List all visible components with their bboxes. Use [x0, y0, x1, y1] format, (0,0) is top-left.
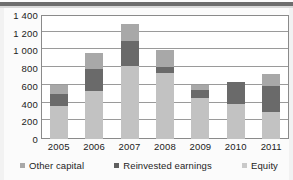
bar-segment-reinv-2007[interactable] — [121, 41, 139, 67]
stacked-bar-2009[interactable] — [191, 85, 209, 139]
bar-segment-other-2005[interactable] — [50, 85, 68, 95]
stacked-bar-2006[interactable] — [85, 53, 103, 139]
legend-item-equity[interactable]: Equity — [242, 160, 278, 171]
bar-group-2007 — [112, 15, 147, 139]
y-tick-label-800: 800 — [0, 63, 38, 74]
legend-swatch-icon-other — [20, 163, 25, 168]
bar-group-2011 — [254, 15, 289, 139]
bar-group-2010 — [218, 15, 253, 139]
page-edge-right — [289, 8, 293, 180]
chart-legend: Other capitalReinvested earningsEquity — [20, 160, 278, 171]
bar-group-2005 — [41, 15, 76, 139]
x-tick-label-2010: 2010 — [218, 141, 253, 152]
bar-segment-reinv-2010[interactable] — [227, 82, 245, 104]
bar-segment-reinv-2005[interactable] — [50, 94, 68, 106]
legend-label-other: Other capital — [29, 160, 84, 171]
legend-swatch-icon-reinv — [114, 163, 119, 168]
legend-item-other[interactable]: Other capital — [20, 160, 84, 171]
top-rule-shadow — [0, 6, 293, 8]
x-tick-label-2005: 2005 — [41, 141, 76, 152]
bar-segment-equity-2008[interactable] — [156, 73, 174, 139]
x-axis-tick-labels: 2005200620072008200920102011 — [41, 141, 289, 152]
bar-group-2009 — [183, 15, 218, 139]
x-tick-label-2008: 2008 — [147, 141, 182, 152]
bar-series-group — [41, 15, 289, 139]
bar-segment-other-2008[interactable] — [156, 50, 174, 68]
y-tick-label-1400: 1 400 — [0, 10, 38, 21]
bar-segment-equity-2007[interactable] — [121, 66, 139, 139]
y-tick-label-1000: 1 000 — [0, 45, 38, 56]
stacked-bar-2011[interactable] — [262, 74, 280, 139]
x-tick-label-2007: 2007 — [112, 141, 147, 152]
bar-segment-other-2006[interactable] — [85, 53, 103, 69]
x-tick-label-2011: 2011 — [254, 141, 289, 152]
chart-figure: 02004006008001 0001 2001 400 20052006200… — [0, 0, 293, 180]
bar-segment-reinv-2006[interactable] — [85, 69, 103, 91]
y-tick-label-200: 200 — [0, 116, 38, 127]
bar-segment-equity-2011[interactable] — [262, 112, 280, 139]
stacked-bar-2005[interactable] — [50, 85, 68, 139]
bar-segment-other-2011[interactable] — [262, 74, 280, 86]
stacked-bar-2007[interactable] — [121, 24, 139, 139]
legend-item-reinv[interactable]: Reinvested earnings — [114, 160, 212, 171]
bar-group-2008 — [147, 15, 182, 139]
bar-segment-other-2007[interactable] — [121, 24, 139, 41]
bar-segment-reinv-2011[interactable] — [262, 86, 280, 111]
legend-swatch-icon-equity — [242, 163, 247, 168]
bar-segment-reinv-2009[interactable] — [191, 90, 209, 98]
y-tick-label-1200: 1 200 — [0, 27, 38, 38]
stacked-bar-2010[interactable] — [227, 82, 245, 139]
bar-segment-equity-2010[interactable] — [227, 104, 245, 139]
bar-segment-equity-2006[interactable] — [85, 91, 103, 139]
bar-segment-equity-2005[interactable] — [50, 106, 68, 139]
bar-group-2006 — [76, 15, 111, 139]
legend-label-reinv: Reinvested earnings — [123, 160, 212, 171]
bar-segment-equity-2009[interactable] — [191, 98, 209, 139]
legend-label-equity: Equity — [251, 160, 278, 171]
y-tick-label-0: 0 — [0, 134, 38, 145]
x-tick-label-2009: 2009 — [183, 141, 218, 152]
stacked-bar-2008[interactable] — [156, 50, 174, 139]
y-tick-label-400: 400 — [0, 98, 38, 109]
x-tick-label-2006: 2006 — [76, 141, 111, 152]
y-tick-label-600: 600 — [0, 80, 38, 91]
